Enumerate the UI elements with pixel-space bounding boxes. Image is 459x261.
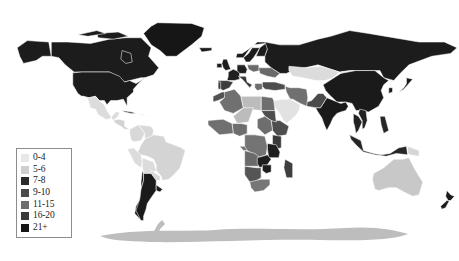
world-choropleth-figure: 0-4 5-6 7-8 9-10 11-15 16-20 21+: [0, 0, 459, 261]
legend-label-21plus: 21+: [33, 222, 48, 234]
legend-swatch-21plus: [21, 224, 29, 232]
legend-item: 5-6: [21, 164, 68, 176]
legend-label-7-8: 7-8: [33, 175, 45, 187]
legend-label-11-15: 11-15: [33, 199, 54, 211]
legend-label-5-6: 5-6: [33, 164, 45, 176]
legend-item: 7-8: [21, 175, 68, 187]
legend-box: 0-4 5-6 7-8 9-10 11-15 16-20 21+: [16, 148, 72, 238]
legend-item: 9-10: [21, 187, 68, 199]
legend-swatch-11-15: [21, 201, 29, 209]
legend-item: 0-4: [21, 152, 68, 164]
legend-swatch-9-10: [21, 189, 29, 197]
legend-swatch-16-20: [21, 212, 29, 220]
legend-swatch-7-8: [21, 177, 29, 185]
legend-label-16-20: 16-20: [33, 210, 55, 222]
legend-item: 11-15: [21, 199, 68, 211]
legend-item: 16-20: [21, 210, 68, 222]
legend-label-0-4: 0-4: [33, 152, 45, 164]
legend-label-9-10: 9-10: [33, 187, 50, 199]
legend-swatch-5-6: [21, 166, 29, 174]
legend-swatch-0-4: [21, 154, 29, 162]
legend-item: 21+: [21, 222, 68, 234]
